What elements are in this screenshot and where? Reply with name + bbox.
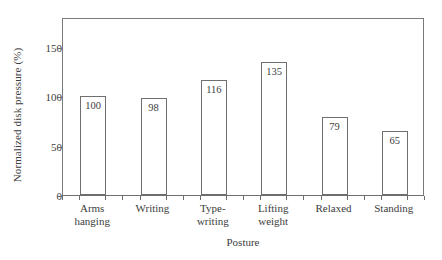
x-category-label: Standing (364, 202, 424, 215)
bar: 65 (382, 131, 408, 195)
x-tick-mark (407, 196, 408, 200)
bar: 116 (201, 80, 227, 195)
bar: 100 (80, 96, 106, 195)
y-axis-ticks: 050100150 (0, 18, 62, 196)
bar-value-label: 65 (383, 135, 407, 147)
x-category-label: Relaxed (303, 202, 363, 215)
plot-area: 100981161357965 (62, 18, 424, 196)
bar-value-label: 116 (202, 84, 226, 96)
x-tick-mark (105, 196, 106, 200)
x-tick-mark (364, 196, 365, 200)
bar: 79 (322, 117, 348, 195)
x-tick-mark (166, 196, 167, 200)
bar-value-label: 100 (81, 100, 105, 112)
bar-chart-figure: Normalized disk pressure (%) 050100150 1… (0, 0, 442, 260)
x-tick-mark (62, 196, 63, 200)
x-tick-mark (321, 196, 322, 200)
x-tick-mark (79, 196, 80, 200)
x-tick-mark (200, 196, 201, 200)
x-tick-mark (286, 196, 287, 200)
x-tick-mark (381, 196, 382, 200)
bar: 135 (261, 62, 287, 196)
x-category-label: Lifting weight (243, 202, 303, 228)
x-axis-title: Posture (62, 236, 424, 248)
bar-value-label: 135 (262, 66, 286, 78)
bar-value-label: 79 (323, 121, 347, 133)
x-tick-mark (226, 196, 227, 200)
x-category-label: Writing (122, 202, 182, 215)
x-tick-mark (140, 196, 141, 200)
bar: 98 (141, 98, 167, 195)
x-tick-mark (303, 196, 304, 200)
x-tick-mark (424, 196, 425, 200)
x-tick-mark (347, 196, 348, 200)
x-tick-mark (243, 196, 244, 200)
x-tick-mark (260, 196, 261, 200)
x-tick-mark (183, 196, 184, 200)
x-tick-mark (122, 196, 123, 200)
x-category-label: Type- writing (183, 202, 243, 228)
bar-value-label: 98 (142, 102, 166, 114)
x-category-label: Arms hanging (62, 202, 122, 228)
